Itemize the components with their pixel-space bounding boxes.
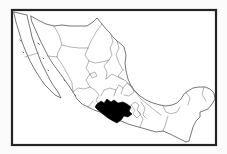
- island-dot: [20, 40, 21, 41]
- island-dot: [43, 58, 44, 59]
- island-dot: [75, 95, 76, 96]
- map-svg: [0, 0, 227, 154]
- island-dot: [64, 80, 65, 81]
- island-dot: [48, 70, 49, 71]
- island-dot: [23, 52, 24, 53]
- mexico-locator-map-figure: [0, 0, 227, 154]
